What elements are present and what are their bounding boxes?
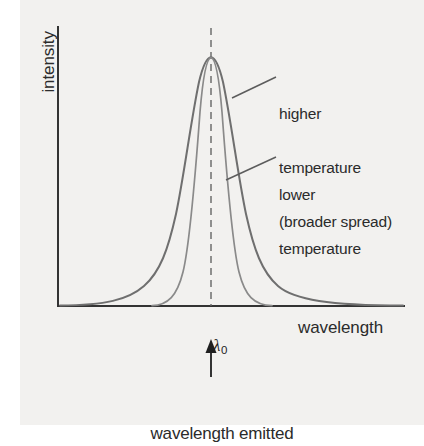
lambda-symbol: λ <box>213 336 220 355</box>
callout-higher-line-1: higher <box>279 105 392 123</box>
curve-lower-temperature <box>152 58 272 306</box>
leader-line-lower-temperature <box>226 157 276 180</box>
callout-lower-line-2: temperature <box>279 240 361 258</box>
x-axis-label: wavelength <box>298 318 383 338</box>
callout-lower-temperature: lower temperature <box>279 150 361 294</box>
caption-line-1: wavelength emitted <box>20 423 424 444</box>
figure-caption: wavelength emitted by stationary atom <box>20 380 424 446</box>
figure-doppler-broadening: intensity wavelength higher temperature … <box>0 0 424 446</box>
lambda-subscript: 0 <box>221 344 227 356</box>
callout-lower-line-1: lower <box>279 186 361 204</box>
y-axis-label: intensity <box>39 7 59 117</box>
leader-line-higher-temperature <box>232 77 276 98</box>
lambda-zero-tick-label: λ0 <box>196 316 227 377</box>
